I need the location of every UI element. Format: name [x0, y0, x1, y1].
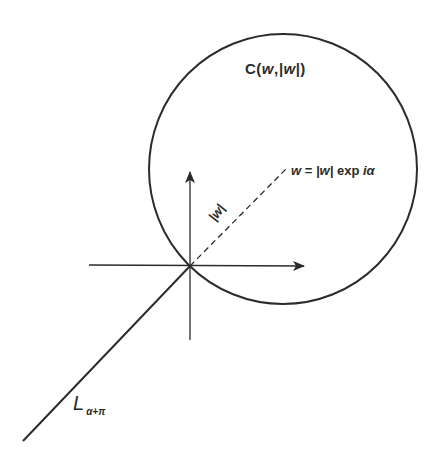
- ray-label: Lα+π: [73, 393, 105, 417]
- center-arg: iα: [363, 163, 375, 178]
- ray-label-subscript: α+π: [86, 406, 105, 417]
- center-point-label: w = |w| exp iα: [291, 164, 375, 177]
- circle-label: C(w,|w|): [245, 61, 306, 76]
- center-modulus: |w|: [316, 163, 333, 178]
- center-func: exp: [333, 163, 363, 178]
- real-axis: [89, 265, 304, 266]
- circle-label-prefix: C: [245, 60, 256, 77]
- circle-label-close: ): [300, 60, 306, 77]
- radius-dashed-line: [190, 169, 286, 266]
- ray-label-main: L: [73, 392, 84, 414]
- center-lhs: w: [291, 163, 301, 178]
- circle-label-arg2: |w|: [279, 60, 301, 77]
- circle-label-arg1: w: [262, 60, 274, 77]
- complex-plane-diagram: [0, 0, 435, 462]
- center-eq: =: [301, 163, 316, 178]
- ray-l-alpha-plus-pi: [23, 266, 190, 441]
